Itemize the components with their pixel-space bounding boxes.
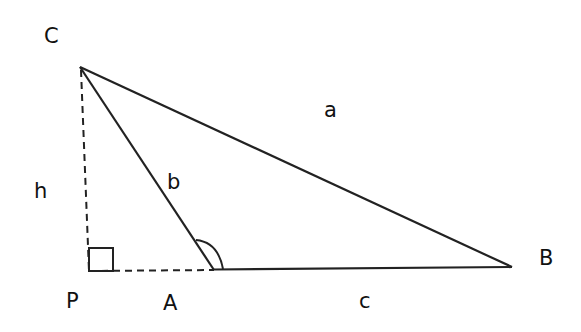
right-angle-marker	[89, 248, 113, 271]
side-label-c: c	[359, 291, 371, 312]
triangle-diagram	[0, 0, 581, 332]
altitude-h-line	[81, 70, 89, 271]
vertex-label-c: C	[44, 26, 59, 47]
altitude-label-h: h	[34, 181, 47, 202]
side-label-a: a	[324, 100, 337, 121]
vertex-label-a: A	[163, 293, 177, 314]
vertex-label-p: P	[66, 291, 79, 312]
side-label-b: b	[167, 172, 180, 193]
side-c-line	[214, 267, 512, 270]
vertex-label-b: B	[539, 248, 553, 269]
